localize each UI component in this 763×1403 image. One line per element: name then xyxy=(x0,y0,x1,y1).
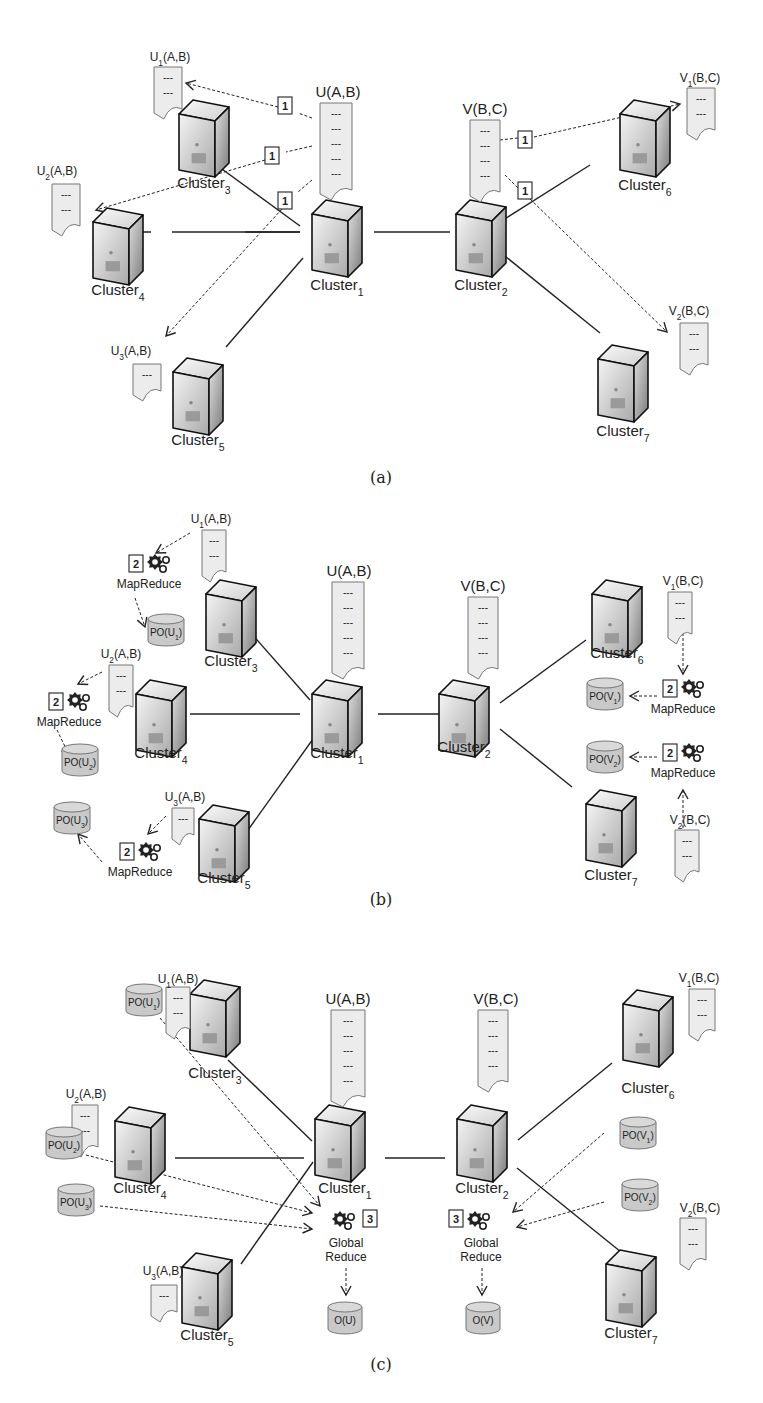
database-top xyxy=(328,1302,362,1312)
link-c1-c5 xyxy=(248,732,318,830)
server-vent xyxy=(636,1043,650,1053)
database-top xyxy=(587,741,623,751)
database-top xyxy=(622,1179,658,1189)
document-label-V1: V1(B,C) xyxy=(679,971,720,989)
document-V2: ------ xyxy=(680,1218,706,1270)
document-row-dashes: --- xyxy=(343,1030,353,1041)
document-label-V2: V2(B,C) xyxy=(680,1201,721,1219)
gear-hole xyxy=(152,559,158,565)
document-row-dashes: --- xyxy=(488,1030,498,1041)
step-badge-number: 2 xyxy=(53,696,59,708)
step-badge-number: 1 xyxy=(282,195,288,207)
server-cluster-7 xyxy=(606,1250,656,1327)
server-cluster-3 xyxy=(190,980,240,1057)
server-vent xyxy=(106,261,120,271)
document-row-dashes: --- xyxy=(343,647,353,658)
server-led xyxy=(109,251,113,255)
cluster-label-7: Cluster7 xyxy=(596,422,650,444)
cluster-label-2: Cluster2 xyxy=(437,738,491,760)
cluster-label-5: Cluster5 xyxy=(197,869,251,891)
server-led xyxy=(328,723,332,727)
server-vent xyxy=(619,1303,633,1313)
server-led xyxy=(195,143,199,147)
document-U1: ------ xyxy=(166,987,190,1039)
document-row-dashes: --- xyxy=(480,170,490,181)
dashed-connector xyxy=(298,180,312,192)
small-gear xyxy=(694,691,700,697)
step-badge-1: 1 xyxy=(278,192,292,209)
server-vent xyxy=(128,1160,142,1170)
link-c1-c3 xyxy=(228,1060,312,1141)
step-badge-number: 2 xyxy=(124,846,130,858)
step-badge-2: 2 xyxy=(663,680,677,697)
document-row-dashes: --- xyxy=(697,1009,707,1020)
three-panel-diagram: ----------------------------------------… xyxy=(0,0,763,1403)
step-badge-number: 2 xyxy=(667,747,673,759)
server-led xyxy=(331,1148,335,1152)
document-label-V1: V1(B,C) xyxy=(663,574,704,592)
cluster-label-1: Cluster1 xyxy=(310,744,364,766)
server-vent xyxy=(186,411,200,421)
document-row-dashes: --- xyxy=(675,612,685,623)
small-gear xyxy=(480,1223,486,1229)
server-vent xyxy=(149,733,163,743)
step-badge-3: 3 xyxy=(449,1210,463,1227)
document-V2: ------ xyxy=(675,830,699,882)
cluster-label-4: Cluster4 xyxy=(113,1179,167,1201)
small-gear xyxy=(80,704,86,710)
arrow-POV1-to-global-reduce xyxy=(513,1133,604,1212)
document-row-dashes: --- xyxy=(142,369,152,380)
gears-icon xyxy=(467,1211,489,1229)
small-gear xyxy=(160,566,166,572)
document-label-U3: U3(A,B) xyxy=(111,344,152,362)
database-top xyxy=(587,678,623,688)
server-cluster-7 xyxy=(598,345,648,422)
document-U1: ------ xyxy=(202,530,226,582)
server-led xyxy=(222,623,226,627)
document-label-U2: U2(A,B) xyxy=(37,164,78,182)
server-vent xyxy=(195,1306,209,1316)
cluster-label-6: Cluster6 xyxy=(621,1079,675,1101)
step-badge-1: 1 xyxy=(265,147,279,164)
server-led xyxy=(215,848,219,852)
document-U: --------------- xyxy=(320,103,352,200)
link-c2-c7 xyxy=(517,1168,621,1252)
cluster-label-4: Cluster4 xyxy=(91,281,145,303)
database-top xyxy=(62,744,98,754)
document-row-dashes: --- xyxy=(675,597,685,608)
server-led xyxy=(608,623,612,627)
link-c2-c6 xyxy=(518,1063,612,1140)
server-vent xyxy=(192,153,206,163)
database-label: O(U) xyxy=(334,1315,356,1326)
small-gear xyxy=(151,854,157,860)
document-row-dashes: --- xyxy=(331,168,341,179)
mapreduce-label-u1: MapReduce xyxy=(117,577,182,591)
arrow-U1-to-mapreduce xyxy=(156,533,190,553)
cluster-label-3: Cluster3 xyxy=(204,652,258,674)
small-gear xyxy=(154,845,160,851)
step-badge-1: 1 xyxy=(518,182,532,199)
server-cluster-7 xyxy=(586,790,636,867)
gear-hole xyxy=(472,1216,478,1222)
step-badge-number: 1 xyxy=(522,185,528,197)
document-V1: ------ xyxy=(668,592,692,644)
document-U2: ------ xyxy=(52,184,80,236)
link-c2-c7 xyxy=(500,252,600,333)
arrow-mapreduce-to-POU1 xyxy=(135,598,145,627)
server-vent xyxy=(605,633,619,643)
cluster-label-2: Cluster2 xyxy=(454,276,508,298)
dashed-connector xyxy=(298,113,312,118)
document-row-dashes: --- xyxy=(61,204,71,215)
document-label-U1: U1(A,B) xyxy=(150,50,191,68)
server-cluster-6 xyxy=(623,990,673,1067)
gears-icon xyxy=(138,842,160,860)
document-row-dashes: --- xyxy=(697,994,707,1005)
cluster-label-2: Cluster2 xyxy=(455,1179,509,1201)
document-label-V1: V1(B,C) xyxy=(680,71,721,89)
dashed-connector xyxy=(500,138,518,140)
document-row-dashes: --- xyxy=(480,140,490,151)
document-U1: ------ xyxy=(154,67,182,119)
document-row-dashes: --- xyxy=(61,189,71,200)
server-cluster-2 xyxy=(457,1105,507,1182)
document-row-dashes: --- xyxy=(343,1015,353,1026)
